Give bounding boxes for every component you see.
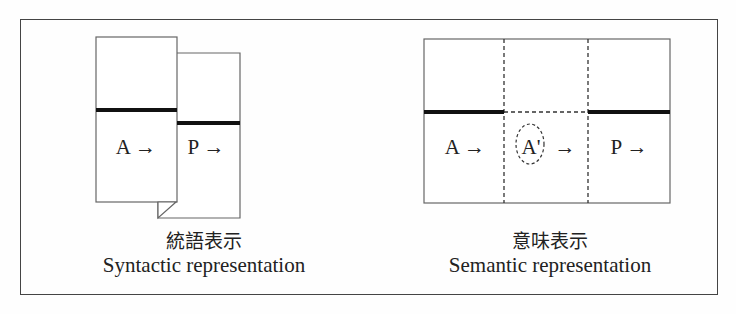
semantic-cell-a: A → [445,135,485,159]
syntactic-cell-p: P → [187,135,224,159]
semantic-cell-p: P → [610,135,647,159]
syntactic-page-a [96,37,177,202]
semantic-caption-en: Semantic representation [420,253,680,277]
syntactic-cell-a: A → [116,135,156,159]
semantic-cell-a-prime: A' [522,135,541,159]
semantic-box [424,39,670,203]
semantic-caption-ja: 意味表示 [420,231,680,253]
semantic-cell-a-prime-arrow: → [555,135,576,159]
semantic-caption: 意味表示 Semantic representation [420,231,680,277]
syntactic-caption-en: Syntactic representation [84,253,324,277]
syntactic-caption-ja: 統語表示 [84,231,324,253]
semantic-diagram: A → A' → P → [424,39,670,203]
syntactic-caption: 統語表示 Syntactic representation [84,231,324,277]
syntactic-diagram: A → P → [96,37,240,218]
